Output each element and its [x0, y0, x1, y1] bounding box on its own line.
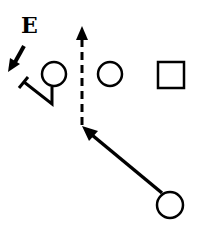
player-1-circle [42, 62, 66, 86]
player-2-circle [98, 62, 122, 86]
end-arrow-icon [8, 46, 24, 72]
vertical-route [76, 26, 88, 125]
player-4-circle [157, 192, 183, 218]
player-3-square [158, 62, 184, 88]
play-diagram [0, 0, 199, 230]
diagonal-route [82, 126, 162, 193]
